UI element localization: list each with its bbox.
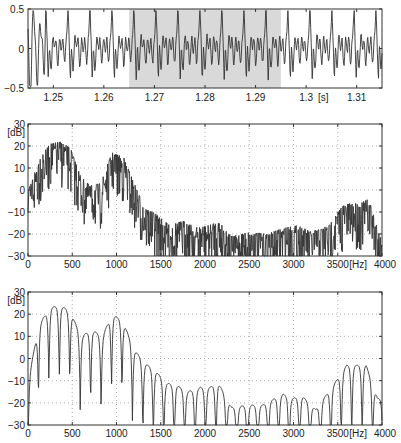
x-unit-label: [Hz] (349, 259, 367, 270)
smoothed-spectrum-plot: 05001000150020002500300035004000[Hz]3020… (7, 287, 396, 439)
x-tick-label: 1000 (105, 259, 128, 270)
y-tick-label: 10 (14, 331, 26, 342)
x-tick-label: 0 (25, 428, 31, 439)
y-tick-label: −10 (8, 207, 25, 218)
y-tick-label: 0.5 (10, 4, 24, 15)
y-tick-label: −0.5 (4, 83, 24, 94)
x-tick-label: 1.27 (145, 92, 165, 103)
y-tick-label: 20 (14, 141, 26, 152)
x-tick-label: 3500 (327, 259, 350, 270)
y-unit-label: [dB] (7, 127, 25, 138)
x-tick-label: 3000 (282, 259, 305, 270)
x-tick-label: 2500 (238, 428, 261, 439)
y-tick-label: −20 (8, 398, 25, 409)
x-tick-label: 1500 (150, 428, 173, 439)
x-tick-label: 2500 (238, 259, 261, 270)
y-tick-label: 0 (19, 354, 25, 365)
x-tick-label: 1.3 (299, 92, 313, 103)
x-tick-label: 1.28 (195, 92, 215, 103)
x-tick-label: 3500 (327, 428, 350, 439)
x-tick-label: 1.31 (347, 92, 367, 103)
x-unit-label: [s] (318, 92, 329, 103)
y-tick-label: −30 (8, 420, 25, 431)
x-tick-label: 2000 (194, 428, 217, 439)
y-tick-label: −20 (8, 229, 25, 240)
waveform-plot: 1.251.261.271.281.291.31.31[s]0.50−0.5 (4, 4, 382, 103)
x-tick-label: 1000 (105, 428, 128, 439)
x-tick-label: 1500 (150, 259, 173, 270)
figure: 1.251.261.271.281.291.31.31[s]0.50−0.505… (0, 0, 401, 443)
x-unit-label: [Hz] (349, 428, 367, 439)
y-tick-label: 0 (19, 185, 25, 196)
x-tick-label: 500 (64, 428, 81, 439)
raw-spectrum-plot: 05001000150020002500300035004000[Hz]3020… (7, 119, 396, 270)
x-tick-label: 2000 (194, 259, 217, 270)
x-tick-label: 1.29 (246, 92, 266, 103)
x-tick-label: 1.25 (44, 92, 64, 103)
y-tick-label: −10 (8, 376, 25, 387)
y-tick-label: −30 (8, 251, 25, 262)
x-tick-label: 500 (64, 259, 81, 270)
spectrum-line (28, 142, 382, 256)
y-tick-label: 10 (14, 163, 26, 174)
y-tick-label: 0 (18, 44, 24, 55)
y-unit-label: [dB] (7, 295, 25, 306)
x-tick-label: 1.26 (94, 92, 114, 103)
y-tick-label: 20 (14, 309, 26, 320)
x-tick-label: 4000 (374, 428, 397, 439)
x-tick-label: 0 (25, 259, 31, 270)
x-tick-label: 3000 (282, 428, 305, 439)
x-tick-label: 4000 (374, 259, 397, 270)
